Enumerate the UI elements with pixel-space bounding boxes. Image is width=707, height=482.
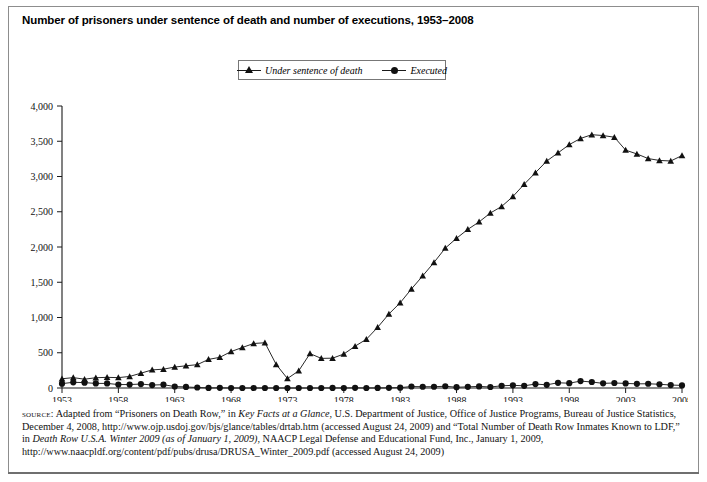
triangle-marker [487, 210, 494, 216]
circle-marker [487, 384, 493, 390]
x-axis-tick-label: 1963 [165, 395, 185, 402]
bottom-rule [8, 472, 699, 474]
circle-marker [127, 381, 133, 387]
legend-item-executed: Executed [382, 65, 447, 76]
circle-marker [251, 385, 257, 391]
y-axis-tick-label: 3,500 [31, 136, 54, 147]
y-axis-tick-label: 0 [48, 383, 53, 394]
x-axis-tick-label: 1968 [221, 395, 241, 402]
circle-marker [431, 384, 437, 390]
circle-marker [645, 381, 651, 387]
circle-marker [623, 380, 629, 386]
circle-marker [228, 385, 234, 391]
x-axis-tick-label: 1978 [334, 395, 354, 402]
y-axis-ticks: 05001,0001,5002,0002,5003,0003,5004,000 [31, 101, 63, 394]
x-axis-tick-label: 1953 [52, 395, 72, 402]
x-axis-tick-label: 1973 [277, 395, 297, 402]
legend-label-under-sentence-of-death: Under sentence of death [265, 65, 362, 76]
circle-marker [442, 383, 448, 389]
circle-marker [194, 384, 200, 390]
x-axis-ticks: 1953195819631968197319781983198819931998… [52, 388, 688, 402]
source-italic-1: Key Facts at a Glance [238, 408, 329, 419]
y-axis-tick-label: 3,000 [31, 171, 54, 182]
circle-marker [521, 383, 527, 389]
legend-label-executed: Executed [410, 65, 447, 76]
title-bar: Number of prisoners under sentence of de… [22, 14, 682, 26]
circle-marker [70, 379, 76, 385]
circle-marker [589, 379, 595, 385]
triangle-marker [228, 348, 235, 354]
triangle-marker [341, 351, 348, 357]
x-axis-tick-label: 1958 [108, 395, 128, 402]
circle-marker [397, 385, 403, 391]
triangle-marker [307, 350, 314, 356]
circle-marker [408, 383, 414, 389]
circle-marker [341, 385, 347, 391]
circle-marker [386, 385, 392, 391]
circle-marker [149, 382, 155, 388]
circle-marker [352, 385, 358, 391]
triangle-marker [352, 343, 359, 349]
circle-marker [329, 385, 335, 391]
circle-marker [532, 381, 538, 387]
triangle-marker [262, 339, 269, 345]
circle-marker [577, 378, 583, 384]
triangle-marker [273, 361, 280, 367]
triangle-marker [194, 361, 201, 367]
source-text-1: Adapted from “Prisoners on Death Row,” i… [54, 408, 239, 419]
triangle-marker [555, 150, 562, 156]
circle-marker [555, 380, 561, 386]
circle-marker [476, 383, 482, 389]
legend-item-under-sentence-of-death: Under sentence of death [237, 65, 362, 76]
circle-marker [138, 381, 144, 387]
circle-marker [93, 380, 99, 386]
circle-marker [296, 385, 302, 391]
circle-marker [510, 382, 516, 388]
chart-plot-area: 05001,0001,5002,0002,5003,0003,5004,000 … [16, 92, 688, 402]
circle-marker [668, 382, 674, 388]
circle-marker [656, 381, 662, 387]
triangle-marker [634, 151, 641, 157]
triangle-marker [295, 367, 302, 373]
circle-marker [205, 385, 211, 391]
x-axis-tick-label: 1993 [503, 395, 523, 402]
triangle-marker [476, 219, 483, 225]
circle-marker [239, 385, 245, 391]
y-axis-tick-label: 2,500 [31, 206, 54, 217]
circle-marker [375, 385, 381, 391]
circle-marker [363, 385, 369, 391]
line-chart-svg: 05001,0001,5002,0002,5003,0003,5004,000 … [16, 92, 688, 402]
circle-marker [262, 385, 268, 391]
triangle-marker [589, 131, 596, 137]
triangle-marker [465, 226, 472, 232]
circle-marker [273, 385, 279, 391]
series-lines [62, 135, 682, 388]
circle-marker [611, 380, 617, 386]
circle-marker [318, 385, 324, 391]
y-axis-tick-label: 1,500 [31, 277, 54, 288]
x-axis-tick-label: 2003 [616, 395, 636, 402]
circle-marker [600, 380, 606, 386]
page-title: Number of prisoners under sentence of de… [22, 14, 682, 26]
circle-marker [160, 382, 166, 388]
y-axis-tick-label: 4,000 [31, 101, 54, 112]
triangle-marker [679, 152, 686, 158]
circle-marker [634, 381, 640, 387]
circle-marker [465, 384, 471, 390]
circle-marker [544, 382, 550, 388]
circle-marker [284, 385, 290, 391]
circle-marker [499, 383, 505, 389]
source-label: source: [22, 408, 54, 419]
x-axis-tick-label: 2008 [672, 395, 688, 402]
series-markers [59, 131, 686, 391]
triangle-marker [239, 344, 246, 350]
y-axis-tick-label: 1,000 [31, 312, 54, 323]
circle-marker [420, 384, 426, 390]
series-line-0 [62, 135, 682, 380]
figure-container: Number of prisoners under sentence of de… [0, 0, 707, 482]
triangle-marker [645, 155, 652, 161]
circle-marker [307, 385, 313, 391]
circle-marker [453, 384, 459, 390]
triangle-marker-icon [237, 65, 261, 75]
circle-marker [217, 385, 223, 391]
